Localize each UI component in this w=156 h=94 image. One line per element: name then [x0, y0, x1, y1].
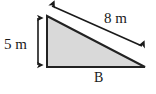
geometry-figure: 5 m 8 m B	[0, 0, 156, 94]
height-label: 5 m	[4, 37, 27, 52]
hypotenuse-label: 8 m	[104, 11, 127, 26]
vertex-label-b: B	[94, 71, 103, 85]
